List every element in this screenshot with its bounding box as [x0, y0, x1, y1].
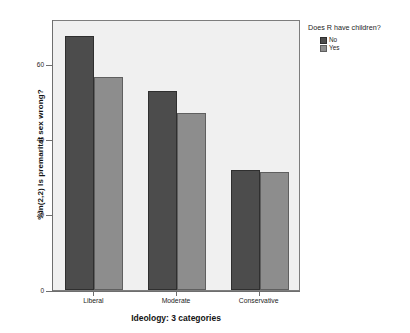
bar-moderate-yes — [177, 113, 206, 290]
bar-liberal-no — [65, 36, 94, 290]
y-tick-label: 0 — [0, 288, 44, 295]
x-tick-label-conservative: Conservative — [219, 298, 299, 305]
y-axis-line — [52, 20, 53, 291]
x-tick-mark — [259, 291, 260, 296]
x-tick-label-moderate: Moderate — [136, 298, 216, 305]
x-tick-mark — [176, 291, 177, 296]
x-tick-label-liberal: Liberal — [53, 298, 133, 305]
bars-layer — [53, 21, 299, 290]
bar-conservative-yes — [260, 172, 289, 290]
plot-area — [52, 20, 300, 291]
bar-conservative-no — [231, 170, 260, 290]
bar-chart: 0204060 %in(2,2) Is premarital sex wrong… — [0, 0, 410, 333]
y-axis-title: %in(2,2) Is premarital sex wrong? — [36, 55, 45, 255]
x-tick-mark — [93, 291, 94, 296]
y-tick-mark — [46, 215, 52, 216]
x-axis-title: Ideology: 3 categories — [52, 313, 300, 323]
legend-items: NoYes — [320, 37, 408, 52]
legend-item-no[interactable]: No — [320, 37, 408, 44]
y-tick-mark — [46, 140, 52, 141]
bar-moderate-no — [148, 91, 177, 290]
legend-label-yes: Yes — [329, 45, 339, 51]
legend-label-no: No — [329, 37, 337, 43]
legend-swatch-no — [320, 37, 327, 44]
bar-liberal-yes — [94, 77, 123, 290]
legend: Does R have children? NoYes — [308, 24, 408, 53]
legend-title: Does R have children? — [308, 24, 408, 33]
y-tick-mark — [46, 65, 52, 66]
legend-item-yes[interactable]: Yes — [320, 45, 408, 52]
legend-swatch-yes — [320, 45, 327, 52]
